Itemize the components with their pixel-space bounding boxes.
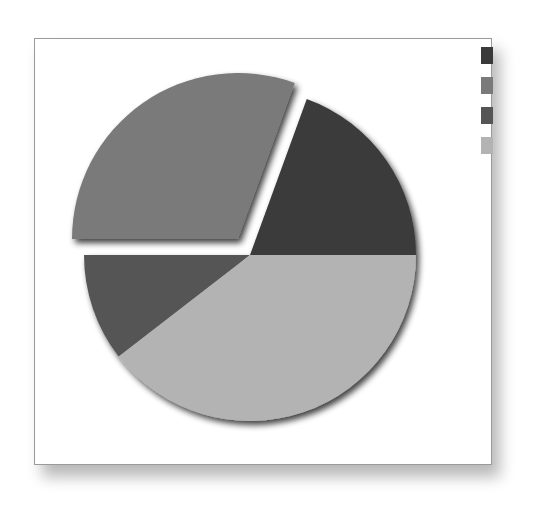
chart-legend bbox=[481, 47, 493, 167]
pie-slice-2 bbox=[72, 73, 295, 239]
legend-swatch-4 bbox=[481, 137, 493, 154]
legend-swatch-2 bbox=[481, 77, 493, 94]
pie-chart bbox=[0, 0, 551, 506]
chart-stage bbox=[0, 0, 551, 506]
legend-swatch-3 bbox=[481, 107, 493, 124]
legend-swatch-1 bbox=[481, 47, 493, 64]
